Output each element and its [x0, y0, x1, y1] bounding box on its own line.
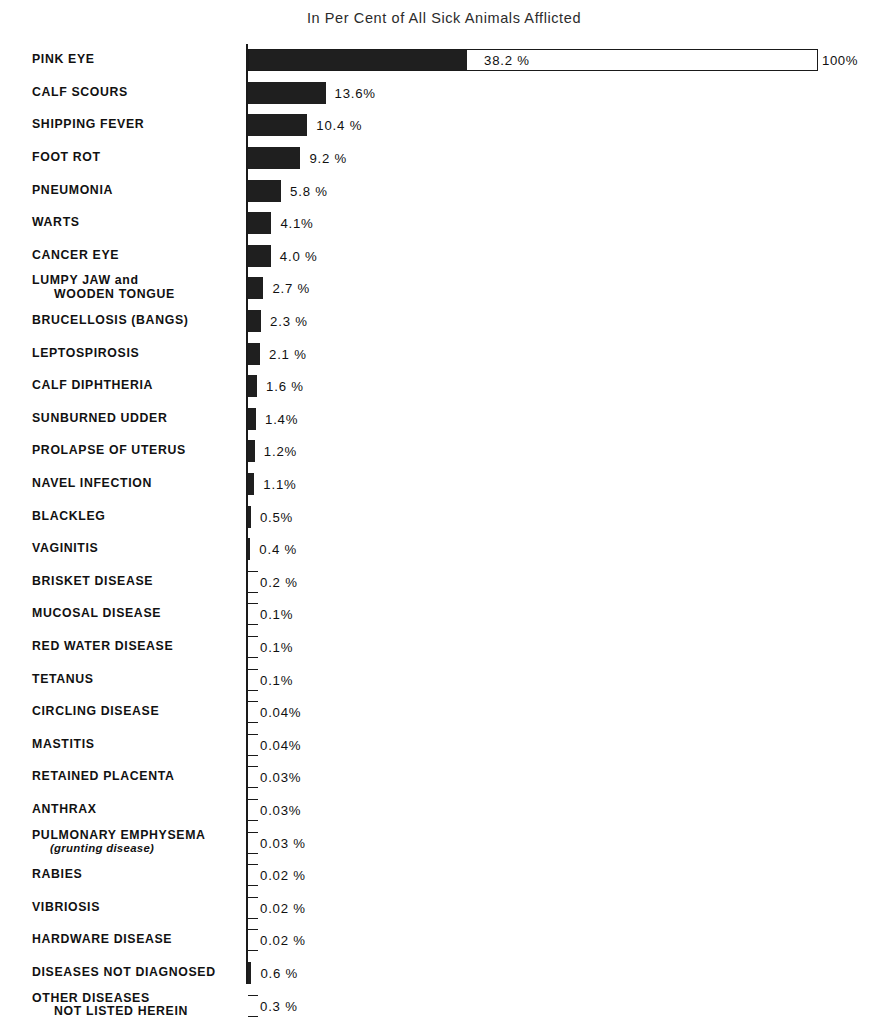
- bar: [248, 506, 251, 528]
- bar-chart-plot-area: PINK EYE38.2 %100%CALF SCOURS13.6%SHIPPI…: [0, 44, 888, 1019]
- bar-value-label: 2.1 %: [269, 346, 307, 361]
- bar-row-label: SUNBURNED UDDER: [32, 412, 238, 426]
- bar-row-label-line1: CALF DIPHTHERIA: [32, 379, 153, 393]
- bar-row: TETANUS0.1%: [0, 663, 888, 696]
- bar-row-label-line1: DISEASES NOT DIAGNOSED: [32, 965, 216, 979]
- bar-value-label: 0.2 %: [260, 574, 298, 589]
- bar-row-label: PULMONARY EMPHYSEMA(grunting disease): [32, 829, 238, 856]
- bar-value-label: 0.4 %: [259, 542, 297, 557]
- bar-row-label: CIRCLING DISEASE: [32, 706, 238, 720]
- bar-row: CANCER EYE4.0 %: [0, 240, 888, 273]
- bar: [248, 114, 307, 136]
- bar-row-label: FOOT ROT: [32, 151, 238, 165]
- bar-value-label: 0.5%: [260, 509, 293, 524]
- bar-value-label: 0.03%: [260, 770, 301, 785]
- bar-row-label: MASTITIS: [32, 738, 238, 752]
- bar-row-label-line1: BRUCELLOSIS (BANGS): [32, 313, 189, 327]
- bar-row: DISEASES NOT DIAGNOSED0.6 %: [0, 957, 888, 990]
- bar-row-label: PNEUMONIA: [32, 184, 238, 198]
- bar-value-label: 0.02 %: [260, 868, 306, 883]
- bar-row: WARTS4.1%: [0, 207, 888, 240]
- bar-row-label-line2: WOODEN TONGUE: [32, 288, 238, 302]
- bar-fill: [249, 50, 467, 70]
- bar-row-label: LEPTOSPIROSIS: [32, 347, 238, 361]
- bar-value-label: 0.1%: [260, 640, 293, 655]
- bar-row-label-line1: PNEUMONIA: [32, 183, 113, 197]
- bar-row: BRISKET DISEASE0.2 %: [0, 566, 888, 599]
- bar-row-label-line1: FOOT ROT: [32, 150, 101, 164]
- bar-row-label-line1: PINK EYE: [32, 53, 95, 67]
- bar-row: PULMONARY EMPHYSEMA(grunting disease)0.0…: [0, 826, 888, 859]
- bar-row: PINK EYE38.2 %100%: [0, 44, 888, 77]
- bar-value-label: 13.6%: [335, 85, 376, 100]
- bar-value-label: 0.02 %: [260, 933, 306, 948]
- bar: [248, 245, 271, 267]
- bar-tick: [248, 571, 258, 593]
- bar-row-label: SHIPPING FEVER: [32, 119, 238, 133]
- bar-tick: [248, 799, 258, 821]
- bar-row-label-line1: LUMPY JAW and: [32, 274, 139, 288]
- bar-tick: [248, 929, 258, 951]
- bar-row: NAVEL INFECTION1.1%: [0, 468, 888, 501]
- bar-value-label: 0.3 %: [260, 998, 298, 1013]
- bar-row-label: DISEASES NOT DIAGNOSED: [32, 966, 238, 980]
- page-title: In Per Cent of All Sick Animals Afflicte…: [0, 10, 888, 26]
- bar-row-label: CALF DIPHTHERIA: [32, 380, 238, 394]
- bar-tick: [248, 995, 258, 1017]
- bar-value-label: 1.1%: [263, 477, 296, 492]
- bar-value-label: 0.02 %: [260, 900, 306, 915]
- bar-row-label: BRISKET DISEASE: [32, 575, 238, 589]
- bar: [248, 82, 326, 104]
- bar-value-label: 4.1%: [280, 216, 313, 231]
- bar-value-label: 4.0 %: [280, 248, 318, 263]
- bar-row-label: PROLAPSE OF UTERUS: [32, 445, 238, 459]
- bar-row: LUMPY JAW andWOODEN TONGUE2.7 %: [0, 272, 888, 305]
- bar-row-label-line1: WARTS: [32, 216, 80, 230]
- bar-row-label-line1: MUCOSAL DISEASE: [32, 607, 161, 621]
- bar-row: ANTHRAX0.03%: [0, 794, 888, 827]
- bar: [248, 538, 250, 560]
- bar-row-label-line1: PULMONARY EMPHYSEMA: [32, 828, 206, 842]
- bar-tick: [248, 832, 258, 854]
- bar-row-label-line1: OTHER DISEASES: [32, 991, 150, 1005]
- bar-row-label: RABIES: [32, 869, 238, 883]
- bar-row-label-line1: CIRCLING DISEASE: [32, 705, 159, 719]
- bar-row: OTHER DISEASESNOT LISTED HEREIN0.3 %: [0, 989, 888, 1022]
- bar-row-label: CANCER EYE: [32, 249, 238, 263]
- bar-row-label: VAGINITIS: [32, 543, 238, 557]
- bar-row-label: OTHER DISEASESNOT LISTED HEREIN: [32, 992, 238, 1019]
- bar-row-label-line1: VAGINITIS: [32, 542, 98, 556]
- bar-row: CALF DIPHTHERIA1.6 %: [0, 370, 888, 403]
- bar-row-label: TETANUS: [32, 673, 238, 687]
- bar-row-label: MUCOSAL DISEASE: [32, 608, 238, 622]
- bar-row-label-line1: LEPTOSPIROSIS: [32, 346, 139, 360]
- bar-value-label: 0.04%: [260, 737, 301, 752]
- bar-value-label: 0.03%: [260, 803, 301, 818]
- bar: [248, 180, 281, 202]
- bar-row-label-line1: BLACKLEG: [32, 509, 106, 523]
- bar-row: MASTITIS0.04%: [0, 729, 888, 762]
- bar-row: FOOT ROT9.2 %: [0, 142, 888, 175]
- bar-row-label-line1: SHIPPING FEVER: [32, 118, 144, 132]
- bar-row-label-line1: RABIES: [32, 868, 82, 882]
- bar-value-label: 5.8 %: [290, 183, 328, 198]
- bar-tick: [248, 669, 258, 691]
- bar-row: MUCOSAL DISEASE0.1%: [0, 598, 888, 631]
- bar-row-label-line2: NOT LISTED HEREIN: [32, 1006, 238, 1020]
- bar-row-label-line1: HARDWARE DISEASE: [32, 933, 172, 947]
- bar-value-label: 0.6 %: [260, 966, 298, 981]
- bar-value-label: 10.4 %: [316, 118, 362, 133]
- bar-tick: [248, 636, 258, 658]
- bar-row: RABIES0.02 %: [0, 859, 888, 892]
- bar-row-label: NAVEL INFECTION: [32, 477, 238, 491]
- bar-row: HARDWARE DISEASE0.02 %: [0, 924, 888, 957]
- bar-row: SUNBURNED UDDER1.4%: [0, 403, 888, 436]
- bar-row: SHIPPING FEVER10.4 %: [0, 109, 888, 142]
- bar: [248, 408, 256, 430]
- bar-value-label: 2.3 %: [270, 314, 308, 329]
- bar-tick: [248, 603, 258, 625]
- bar: [248, 147, 300, 169]
- bar-row-label-line1: NAVEL INFECTION: [32, 476, 152, 490]
- bar-row-label: RETAINED PLACENTA: [32, 771, 238, 785]
- bar-row-label-line1: BRISKET DISEASE: [32, 574, 153, 588]
